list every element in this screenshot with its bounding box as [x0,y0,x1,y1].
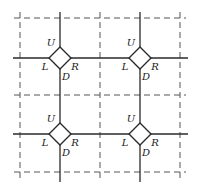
vertex-diamond [49,123,71,145]
label-u: U [47,37,56,48]
label-l: L [121,137,129,148]
label-r: R [70,61,79,72]
label-d: D [141,71,150,82]
lattice-diagram: U L D R U L D R U L D R U L D R [0,0,198,188]
label-r: R [70,137,79,148]
label-r: R [150,137,159,148]
label-u: U [127,113,136,124]
label-r: R [150,61,159,72]
label-d: D [61,71,70,82]
label-u: U [47,113,56,124]
vertex-diamond [49,47,71,69]
label-l: L [41,61,49,72]
dashed-grid [14,12,186,178]
label-l: L [121,61,129,72]
label-d: D [141,147,150,158]
label-u: U [127,37,136,48]
label-d: D [61,147,70,158]
lattice-svg: U L D R U L D R U L D R U L D R [0,0,198,188]
label-l: L [41,137,49,148]
vertex-diamond [129,123,151,145]
vertex-diamond [129,47,151,69]
